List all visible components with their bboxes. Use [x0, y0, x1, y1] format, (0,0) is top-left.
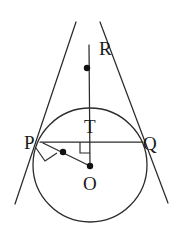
vertex-label-t: T: [84, 116, 96, 137]
dot-on-segment-rt: [84, 65, 90, 71]
vertex-label-q: Q: [143, 133, 157, 154]
right-angle-mark-at-t: [80, 142, 90, 153]
vertex-label-r: R: [99, 38, 112, 59]
dot-on-segment-po: [60, 149, 66, 155]
geometry-canvas: R P Q T O: [0, 0, 186, 238]
line-r-to-o: [89, 45, 90, 166]
radius-p-to-o: [43, 143, 90, 166]
dot-at-centre-o: [87, 163, 93, 169]
right-angle-mark-at-p: [36, 148, 57, 161]
vertex-label-o: O: [83, 173, 97, 194]
geometry-figure: R P Q T O: [0, 0, 186, 238]
vertex-label-p: P: [24, 132, 35, 153]
